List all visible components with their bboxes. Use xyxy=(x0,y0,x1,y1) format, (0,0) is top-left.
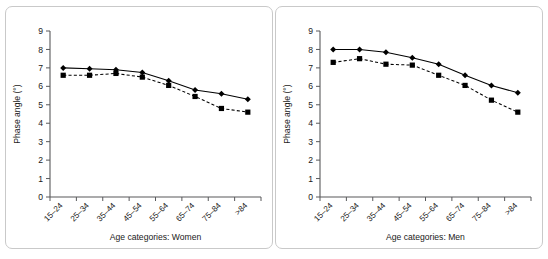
plot-area-men: 012345678915–2425–3435–4445–5455–6465–74… xyxy=(276,7,542,248)
x-axis-title: Age categories: Men xyxy=(386,232,465,242)
data-point-square xyxy=(192,94,197,99)
y-axis-tick-label: 4 xyxy=(308,118,313,128)
data-point-square xyxy=(489,98,494,103)
data-point-square xyxy=(331,60,336,65)
data-point-diamond xyxy=(192,87,198,93)
y-axis-tick-label: 2 xyxy=(308,155,313,165)
data-point-diamond xyxy=(245,96,251,102)
data-point-square xyxy=(410,63,415,68)
data-point-square xyxy=(462,83,467,88)
data-point-square xyxy=(87,73,92,78)
y-axis-tick-label: 0 xyxy=(308,192,313,202)
data-point-diamond xyxy=(60,65,66,71)
data-point-square xyxy=(436,73,441,78)
data-point-diamond xyxy=(462,72,468,78)
y-axis-tick-label: 5 xyxy=(38,100,43,110)
panel-women: 012345678915–2425–3435–4445–5455–6465–74… xyxy=(5,6,273,249)
x-axis-tick-label: 15–24 xyxy=(312,201,335,224)
plot-area-women: 012345678915–2425–3435–4445–5455–6465–74… xyxy=(6,7,272,248)
data-point-diamond xyxy=(218,91,224,97)
y-axis-tick-label: 4 xyxy=(38,118,43,128)
figure-two-panel-line-charts: 012345678915–2425–3435–4445–5455–6465–74… xyxy=(0,0,548,259)
y-axis-tick-label: 5 xyxy=(308,100,313,110)
data-point-square xyxy=(61,73,66,78)
y-axis-tick-label: 0 xyxy=(38,192,43,202)
y-axis-tick-label: 1 xyxy=(38,174,43,184)
y-axis-tick-label: 1 xyxy=(308,174,313,184)
data-point-diamond xyxy=(357,46,363,52)
data-point-diamond xyxy=(488,82,494,88)
data-point-diamond xyxy=(515,90,521,96)
x-axis-tick-label: 65–74 xyxy=(444,201,467,224)
y-axis-tick-label: 9 xyxy=(308,26,313,36)
y-axis-tick-label: 2 xyxy=(38,155,43,165)
data-point-square xyxy=(515,110,520,115)
y-axis-title: Phase angle (°) xyxy=(12,84,22,143)
y-axis-tick-label: 3 xyxy=(308,137,313,147)
x-axis-tick-label: 25–34 xyxy=(69,201,92,224)
x-axis-tick-label: 55–64 xyxy=(418,201,441,224)
y-axis-title: Phase angle (°) xyxy=(282,84,292,143)
x-axis-tick-label: 75–84 xyxy=(201,201,224,224)
panel-men: 012345678915–2425–3435–4445–5455–6465–74… xyxy=(275,6,543,249)
data-point-diamond xyxy=(436,61,442,67)
x-axis-tick-label: 35–44 xyxy=(95,201,118,224)
x-axis-tick-label: 55–64 xyxy=(148,201,171,224)
y-axis-tick-label: 8 xyxy=(308,45,313,55)
data-point-square xyxy=(357,56,362,61)
data-point-square xyxy=(219,106,224,111)
data-point-diamond xyxy=(87,66,93,72)
y-axis-tick-label: 8 xyxy=(38,45,43,55)
data-point-square xyxy=(245,110,250,115)
data-point-square xyxy=(140,75,145,80)
x-axis-tick-label: 75–84 xyxy=(471,201,494,224)
x-axis-tick-label: 25–34 xyxy=(339,201,362,224)
y-axis-tick-label: 6 xyxy=(308,81,313,91)
x-axis-tick-label: 65–74 xyxy=(174,201,197,224)
data-point-diamond xyxy=(409,55,415,61)
x-axis-tick-label: 15–24 xyxy=(42,201,65,224)
x-axis-title: Age categories: Women xyxy=(110,232,202,242)
y-axis-tick-label: 7 xyxy=(38,63,43,73)
x-axis-tick-label: >84 xyxy=(233,201,249,217)
y-axis-tick-label: 9 xyxy=(38,26,43,36)
x-axis-tick-label: 45–54 xyxy=(121,201,144,224)
x-axis-tick-label: 35–44 xyxy=(365,201,388,224)
chart-svg-men: 012345678915–2425–3435–4445–5455–6465–74… xyxy=(276,7,544,250)
y-axis-tick-label: 6 xyxy=(38,81,43,91)
data-point-diamond xyxy=(383,49,389,55)
chart-svg-women: 012345678915–2425–3435–4445–5455–6465–74… xyxy=(6,7,274,250)
data-point-diamond xyxy=(330,46,336,52)
x-axis-tick-label: >84 xyxy=(503,201,519,217)
data-point-square xyxy=(383,62,388,67)
y-axis-tick-label: 3 xyxy=(38,137,43,147)
data-point-square xyxy=(113,71,118,76)
y-axis-tick-label: 7 xyxy=(308,63,313,73)
data-point-square xyxy=(166,83,171,88)
x-axis-tick-label: 45–54 xyxy=(391,201,414,224)
